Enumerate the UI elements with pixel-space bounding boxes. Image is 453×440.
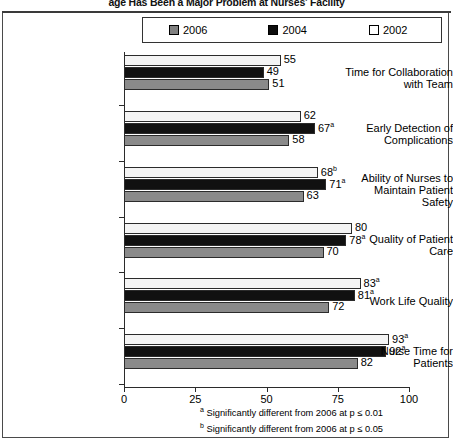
bar-value-label: 58 bbox=[289, 133, 304, 145]
x-tick-75 bbox=[338, 387, 339, 392]
chart-legend: 2006 2004 2002 bbox=[142, 17, 442, 43]
bar-2006[interactable] bbox=[124, 302, 329, 313]
significance-marker: a bbox=[404, 332, 408, 339]
bar-2002[interactable] bbox=[124, 334, 389, 345]
y-tick bbox=[119, 272, 125, 273]
bar-2002[interactable] bbox=[124, 167, 318, 178]
significance-marker: a bbox=[376, 276, 380, 283]
legend-label-2004: 2004 bbox=[282, 24, 306, 36]
category-label-line: Patients bbox=[333, 357, 453, 369]
category-label-line: with Team bbox=[333, 78, 453, 90]
category-label: Nurse Time forPatients bbox=[333, 345, 453, 369]
x-tick-50 bbox=[267, 387, 268, 392]
legend-label-2002: 2002 bbox=[383, 24, 407, 36]
footnote-a-marker: a bbox=[200, 406, 204, 413]
x-tick-0 bbox=[124, 387, 125, 392]
y-tick bbox=[119, 161, 125, 162]
bar-2002[interactable] bbox=[124, 111, 301, 122]
category-label-line: Maintain Patient bbox=[333, 184, 453, 196]
bar-2002[interactable] bbox=[124, 278, 361, 289]
bar-value-label: 67a bbox=[315, 121, 334, 134]
bar-2004[interactable] bbox=[124, 179, 326, 190]
bar-2002[interactable] bbox=[124, 55, 281, 66]
legend-swatch-2002 bbox=[369, 25, 379, 35]
x-tick-label-0: 0 bbox=[104, 393, 144, 405]
bar-value-label: 80 bbox=[352, 221, 367, 233]
footnotes: a Significantly different from 2006 at p… bbox=[200, 404, 448, 435]
bar-2006[interactable] bbox=[124, 191, 304, 202]
bar-row: 62 bbox=[124, 111, 409, 122]
bar-value-label: 62 bbox=[301, 109, 316, 121]
category-label-line: Time for Collaboration bbox=[333, 66, 453, 78]
category-label-line: Care bbox=[333, 245, 453, 257]
category-label-line: Safety bbox=[333, 196, 453, 208]
legend-label-2006: 2006 bbox=[183, 24, 207, 36]
category-label-line: Ability of Nurses to bbox=[333, 172, 453, 184]
chart-title: age Has Been a Major Problem at Nurses' … bbox=[0, 0, 453, 8]
bar-2004[interactable] bbox=[124, 235, 346, 246]
bar-2006[interactable] bbox=[124, 247, 324, 258]
category-label-line: Quality of Patient bbox=[333, 233, 453, 245]
bar-2006[interactable] bbox=[124, 135, 289, 146]
category-label-line: Work Life Quality bbox=[333, 295, 453, 307]
y-tick bbox=[119, 105, 125, 106]
bar-value-label: 55 bbox=[281, 53, 296, 65]
bar-2004[interactable] bbox=[124, 67, 264, 78]
footnote-a: a Significantly different from 2006 at p… bbox=[200, 404, 448, 420]
bar-value-label: 51 bbox=[269, 77, 284, 89]
bar-row: 93a bbox=[124, 334, 409, 345]
bar-2006[interactable] bbox=[124, 79, 269, 90]
legend-item-2006: 2006 bbox=[169, 24, 207, 36]
y-tick bbox=[119, 217, 125, 218]
plot-area: 5549516267a5868b71a638078a7083a81a7293a9… bbox=[124, 52, 409, 387]
legend-swatch-2004 bbox=[268, 25, 278, 35]
bar-2004[interactable] bbox=[124, 123, 315, 134]
footnote-b: b Significantly different from 2006 at p… bbox=[200, 420, 448, 436]
legend-item-2002: 2002 bbox=[369, 24, 407, 36]
category-label: Time for Collaborationwith Team bbox=[333, 66, 453, 90]
y-tick bbox=[119, 384, 125, 385]
x-tick-100 bbox=[409, 387, 410, 392]
bar-2006[interactable] bbox=[124, 358, 358, 369]
footnote-b-text: Significantly different from 2006 at p ≤… bbox=[207, 424, 384, 434]
category-label-line: Complications bbox=[333, 134, 453, 146]
bar-value-label: 83a bbox=[361, 276, 380, 289]
category-label: Quality of PatientCare bbox=[333, 233, 453, 257]
legend-item-2004: 2004 bbox=[268, 24, 306, 36]
legend-swatch-2006 bbox=[169, 25, 179, 35]
bar-row: 80 bbox=[124, 223, 409, 234]
footnote-a-text: Significantly different from 2006 at p ≤… bbox=[207, 408, 384, 418]
footnote-b-marker: b bbox=[200, 422, 204, 429]
category-label: Ability of Nurses toMaintain PatientSafe… bbox=[333, 172, 453, 208]
y-tick bbox=[119, 328, 125, 329]
bar-2002[interactable] bbox=[124, 223, 352, 234]
category-label-line: Early Detection of bbox=[333, 122, 453, 134]
x-tick-25 bbox=[195, 387, 196, 392]
category-label-line: Nurse Time for bbox=[333, 345, 453, 357]
bar-value-label: 63 bbox=[304, 189, 319, 201]
bar-value-label: 93a bbox=[389, 332, 408, 345]
bar-2004[interactable] bbox=[124, 290, 355, 301]
category-label: Early Detection ofComplications bbox=[333, 122, 453, 146]
category-label: Work Life Quality bbox=[333, 295, 453, 307]
bar-value-label: 49 bbox=[264, 65, 279, 77]
